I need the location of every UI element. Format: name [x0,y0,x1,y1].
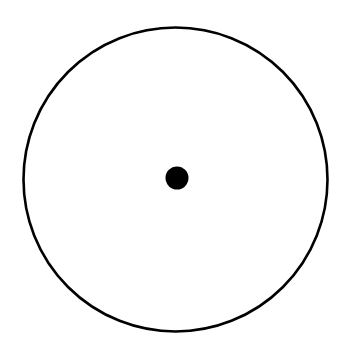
center-dot [166,167,189,190]
circle-diagram [0,0,346,348]
